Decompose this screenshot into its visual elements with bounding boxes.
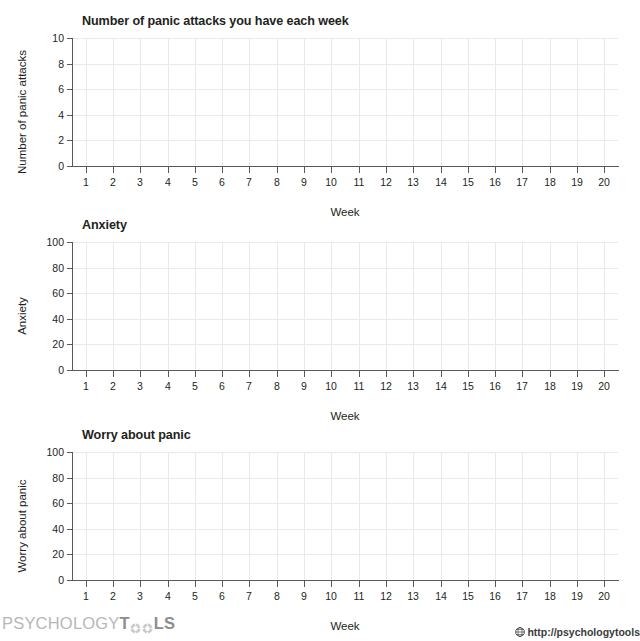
gridline-vertical [277,242,278,370]
gridline-vertical [495,452,496,580]
y-tick-mark [67,166,72,167]
gridline-vertical [195,38,196,166]
gridline-vertical [195,452,196,580]
gear-icon-secondary [142,619,153,630]
logo-text-ls: LS [154,614,175,633]
gridline-vertical [140,452,141,580]
gridline-vertical [140,38,141,166]
x-tick-label: 7 [246,380,252,392]
plot-wrapper: 0204060801001234567891011121314151617181… [72,242,618,370]
gridline-horizontal [72,293,618,294]
x-tick-mark [413,581,414,587]
gridline-vertical [577,242,578,370]
x-tick-mark [277,167,278,173]
x-tick-label: 5 [192,176,198,188]
x-tick-label: 20 [598,380,610,392]
x-tick-mark [577,371,578,377]
x-tick-mark [441,371,442,377]
x-tick-mark [195,371,196,377]
y-tick-mark [67,319,72,320]
plot-wrapper: 0204060801001234567891011121314151617181… [72,452,618,580]
gridline-vertical [441,242,442,370]
x-tick-label: 5 [192,590,198,602]
x-tick-mark [550,371,551,377]
worksheet-page: Number of panic attacks you have each we… [0,0,640,641]
x-tick-mark [550,581,551,587]
website-url[interactable]: http://psychologytools [515,626,640,638]
gridline-vertical [86,452,87,580]
gridline-vertical [441,38,442,166]
gridline-vertical [604,38,605,166]
gridline-vertical [550,242,551,370]
x-tick-label: 2 [110,590,116,602]
x-tick-label: 6 [219,590,225,602]
gridline-vertical [577,452,578,580]
gridline-horizontal [72,503,618,504]
gridline-vertical [304,242,305,370]
gridline-vertical [413,38,414,166]
gear-icon [130,619,141,630]
y-tick-mark [67,89,72,90]
gridline-vertical [168,452,169,580]
x-tick-mark [604,167,605,173]
x-tick-label: 12 [380,176,392,188]
x-tick-mark [249,167,250,173]
x-tick-label: 2 [110,176,116,188]
gridline-vertical [222,38,223,166]
x-tick-label: 20 [598,176,610,188]
x-tick-mark [359,167,360,173]
gridline-vertical [413,452,414,580]
chart-title: Worry about panic [82,428,191,442]
y-tick-label: 20 [52,338,64,350]
plot-wrapper: 02468101234567891011121314151617181920 [72,38,618,166]
x-tick-mark [359,581,360,587]
x-tick-label: 17 [516,590,528,602]
gridline-vertical [386,242,387,370]
gridline-vertical [441,452,442,580]
x-tick-label: 19 [571,380,583,392]
y-tick-mark [67,580,72,581]
gridline-vertical [495,242,496,370]
y-tick-mark [67,242,72,243]
x-tick-mark [441,167,442,173]
gridline-vertical [331,242,332,370]
gridline-horizontal [72,319,618,320]
gridline-vertical [249,242,250,370]
gridline-vertical [277,452,278,580]
x-tick-label: 4 [165,590,171,602]
x-tick-label: 9 [301,590,307,602]
x-tick-mark [550,167,551,173]
x-tick-mark [86,167,87,173]
x-tick-label: 18 [544,176,556,188]
x-tick-mark [441,581,442,587]
gridline-horizontal [72,115,618,116]
x-tick-mark [168,581,169,587]
x-tick-label: 14 [435,380,447,392]
gridline-horizontal [72,452,618,453]
gridline-vertical [304,452,305,580]
gridline-vertical [468,242,469,370]
gridline-vertical [331,452,332,580]
x-tick-label: 14 [435,590,447,602]
x-tick-mark [468,371,469,377]
y-tick-label: 0 [58,160,64,172]
gridline-horizontal [72,64,618,65]
x-tick-mark [222,371,223,377]
gridline-vertical [249,38,250,166]
chart-y-axis-label: Number of panic attacks [16,37,28,187]
x-tick-label: 11 [354,380,365,392]
gridline-vertical [113,38,114,166]
x-tick-mark [222,167,223,173]
y-tick-mark [67,452,72,453]
x-tick-label: 20 [598,590,610,602]
x-tick-label: 10 [325,590,337,602]
x-tick-label: 3 [137,176,143,188]
gridline-horizontal [72,38,618,39]
y-tick-mark [67,268,72,269]
gridline-vertical [550,38,551,166]
x-tick-mark [249,581,250,587]
gridline-vertical [468,452,469,580]
y-tick-mark [67,293,72,294]
gridline-vertical [195,242,196,370]
gridline-vertical [604,452,605,580]
